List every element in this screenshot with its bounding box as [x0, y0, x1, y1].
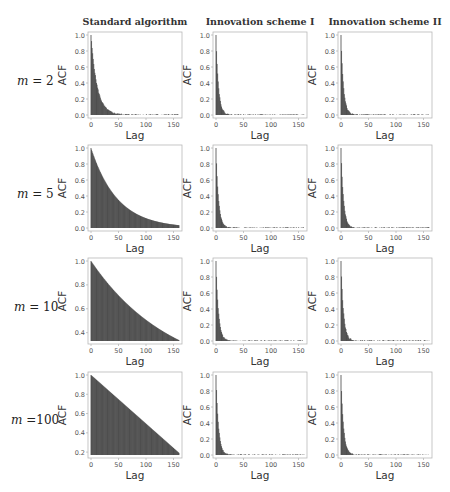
x-tick-label: 100: [140, 347, 152, 355]
y-tick-label: 0.4: [200, 420, 210, 428]
acf-bars: [216, 375, 304, 455]
y-tick-label: 0.0: [200, 225, 210, 233]
x-tick-label: 0: [89, 121, 93, 129]
x-tick-label: 100: [265, 121, 277, 129]
y-tick-label: 0.4: [325, 306, 335, 314]
x-tick-label: 50: [239, 461, 247, 469]
y-tick-label: 1.0: [325, 372, 335, 380]
x-tick-label: 50: [114, 347, 122, 355]
y-tick-label: 1.0: [325, 145, 335, 153]
y-tick-label: 1.0: [200, 258, 210, 266]
y-tick-label: 1.0: [75, 32, 85, 40]
y-tick-label: 0.2: [325, 322, 335, 330]
y-tick-label: 0.6: [75, 410, 85, 418]
y-tick-label: 0.0: [75, 225, 85, 233]
x-axis-label: Lag: [376, 129, 395, 141]
acf-chart: 0.00.20.40.60.81.0050100150LagACF: [173, 254, 313, 372]
x-tick-label: 50: [239, 121, 247, 129]
y-tick-label: 1.0: [325, 258, 335, 266]
y-tick-label: 0.2: [200, 322, 210, 330]
y-axis-label: ACF: [56, 291, 68, 311]
x-tick-label: 150: [417, 347, 429, 355]
acf-chart: 0.00.20.40.60.81.0050100150LagACF: [298, 254, 438, 372]
y-axis-label: ACF: [306, 65, 318, 85]
x-tick-label: 0: [214, 121, 218, 129]
y-tick-label: 0.6: [75, 177, 85, 185]
x-tick-label: 50: [364, 234, 372, 242]
y-tick-label: 0.4: [200, 193, 210, 201]
x-axis-label: Lag: [376, 469, 395, 481]
x-tick-label: 50: [114, 234, 122, 242]
x-axis-label: Lag: [251, 242, 270, 254]
y-tick-label: 0.6: [325, 177, 335, 185]
x-tick-label: 150: [417, 461, 429, 469]
x-tick-label: 50: [364, 461, 372, 469]
acf-bars: [216, 148, 304, 228]
y-tick-label: 0.2: [325, 209, 335, 217]
y-tick-label: 0.4: [75, 80, 85, 88]
y-axis-label: ACF: [181, 65, 193, 85]
x-tick-label: 150: [417, 234, 429, 242]
y-tick-label: 1.0: [75, 145, 85, 153]
x-tick-label: 100: [265, 234, 277, 242]
y-tick-label: 1.0: [325, 32, 335, 40]
x-axis-label: Lag: [251, 355, 270, 367]
y-tick-label: 0.4: [75, 329, 85, 337]
y-tick-label: 0.8: [200, 48, 210, 56]
y-tick-label: 0.2: [200, 209, 210, 217]
acf-bars: [91, 375, 179, 455]
x-tick-label: 100: [140, 461, 152, 469]
y-tick-label: 0.6: [325, 290, 335, 298]
y-tick-label: 1.0: [200, 145, 210, 153]
x-axis-label: Lag: [126, 355, 145, 367]
plot-frame: [213, 145, 307, 231]
acf-bars: [341, 261, 429, 341]
acf-bars: [216, 35, 304, 115]
x-tick-label: 50: [114, 461, 122, 469]
y-tick-label: 0.4: [75, 193, 85, 201]
y-tick-label: 0.2: [325, 436, 335, 444]
x-axis-label: Lag: [251, 129, 270, 141]
acf-chart: 0.00.20.40.60.81.0050100150LagACF: [48, 28, 188, 146]
acf-bars: [341, 375, 429, 455]
y-axis-label: ACF: [56, 178, 68, 198]
x-tick-label: 100: [390, 234, 402, 242]
x-axis-label: Lag: [376, 355, 395, 367]
x-tick-label: 100: [265, 461, 277, 469]
column-title-standard: Standard algorithm: [75, 16, 195, 27]
y-tick-label: 0.6: [200, 290, 210, 298]
acf-bars: [216, 261, 304, 341]
x-axis-label: Lag: [126, 469, 145, 481]
column-title-innovation-2: Innovation scheme II: [325, 16, 445, 27]
acf-bars: [91, 148, 179, 228]
y-tick-label: 0.4: [325, 420, 335, 428]
x-tick-label: 100: [390, 121, 402, 129]
y-axis-label: ACF: [306, 405, 318, 425]
x-tick-label: 100: [140, 121, 152, 129]
x-axis-label: Lag: [126, 242, 145, 254]
y-tick-label: 0.4: [200, 306, 210, 314]
y-axis-label: ACF: [56, 405, 68, 425]
y-tick-label: 0.2: [200, 436, 210, 444]
y-tick-label: 0.6: [325, 404, 335, 412]
y-tick-label: 0.8: [325, 48, 335, 56]
y-tick-label: 0.4: [325, 193, 335, 201]
y-tick-label: 0.0: [325, 452, 335, 460]
y-axis-label: ACF: [306, 291, 318, 311]
y-tick-label: 0.8: [200, 161, 210, 169]
y-tick-label: 0.6: [325, 64, 335, 72]
y-tick-label: 0.6: [75, 305, 85, 313]
x-tick-label: 50: [114, 121, 122, 129]
x-tick-label: 0: [89, 347, 93, 355]
acf-chart: 0.00.20.40.60.81.0050100150LagACF: [298, 368, 438, 486]
y-tick-label: 0.0: [325, 225, 335, 233]
x-tick-label: 50: [364, 121, 372, 129]
x-tick-label: 50: [239, 234, 247, 242]
acf-bars: [341, 148, 429, 228]
y-axis-label: ACF: [306, 178, 318, 198]
x-tick-label: 50: [239, 347, 247, 355]
plot-frame: [338, 258, 432, 344]
x-tick-label: 0: [89, 461, 93, 469]
plot-frame: [338, 145, 432, 231]
y-tick-label: 0.2: [75, 209, 85, 217]
